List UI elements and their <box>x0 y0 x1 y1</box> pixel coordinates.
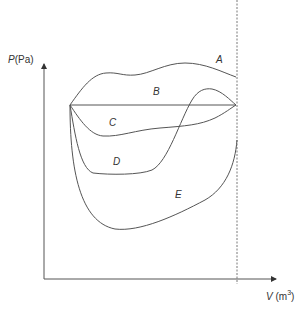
curve-a-label: A <box>216 54 223 65</box>
curve-a <box>70 63 236 105</box>
x-axis-variable: V <box>266 291 273 302</box>
curve-c-label: C <box>109 117 116 128</box>
y-axis-unit: (Pa) <box>15 54 34 65</box>
x-axis-unit-close: ) <box>291 291 294 302</box>
curve-c <box>70 105 236 136</box>
pv-diagram <box>0 0 304 315</box>
curve-e-label: E <box>175 189 182 200</box>
curve-b-label: B <box>153 86 160 97</box>
x-axis-label: V (m3) <box>266 291 294 302</box>
x-axis-unit-base: (m <box>275 291 287 302</box>
curve-d <box>70 89 236 174</box>
curve-d-label: D <box>113 156 120 167</box>
y-axis-variable: P <box>8 54 15 65</box>
curve-e <box>70 105 237 229</box>
y-axis-label: P(Pa) <box>8 54 34 65</box>
x-axis-unit-exponent: 3 <box>287 289 291 296</box>
